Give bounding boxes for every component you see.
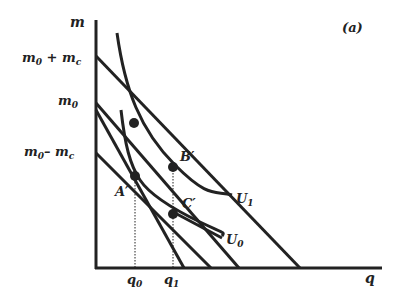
indifference-curve-diagram: (a) m q m0 + mc m0 m0– mc q0 q1 U1 U0 B′… xyxy=(0,0,403,303)
label-u1: U1 xyxy=(236,191,254,208)
tick-m0-plus-mc: m0 + mc xyxy=(22,50,82,67)
label-a-prime: A′ xyxy=(113,184,129,199)
point-c-prime xyxy=(168,209,178,219)
indifference-curve-u0-tail xyxy=(175,213,222,238)
y-axis-label: m xyxy=(70,14,85,30)
point-b-prime xyxy=(168,162,178,172)
tick-m0-minus-mc: m0– mc xyxy=(24,144,75,161)
point-tangency-top xyxy=(129,118,139,128)
label-b-prime: B′ xyxy=(179,149,195,164)
label-c-prime: C′ xyxy=(182,196,196,211)
x-axis-label: q xyxy=(365,270,375,286)
tick-q0: q0 xyxy=(127,272,143,289)
tick-m0: m0 xyxy=(58,93,79,110)
panel-label: (a) xyxy=(342,20,363,35)
tick-q1: q1 xyxy=(164,272,179,289)
label-u0: U0 xyxy=(226,232,244,249)
point-a-prime xyxy=(130,171,140,181)
